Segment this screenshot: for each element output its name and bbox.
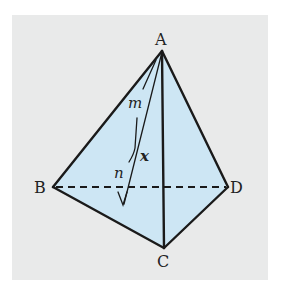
vertex-label-D: D <box>230 178 243 197</box>
vertex-label-B: B <box>34 178 46 197</box>
vertex-label-A: A <box>154 30 167 49</box>
tetrahedron-diagram: A B C D m n x <box>0 0 281 295</box>
vertex-label-C: C <box>157 252 169 271</box>
line-label-m: m <box>128 94 142 112</box>
angle-label-x: x <box>139 147 150 165</box>
line-label-n: n <box>114 164 124 182</box>
